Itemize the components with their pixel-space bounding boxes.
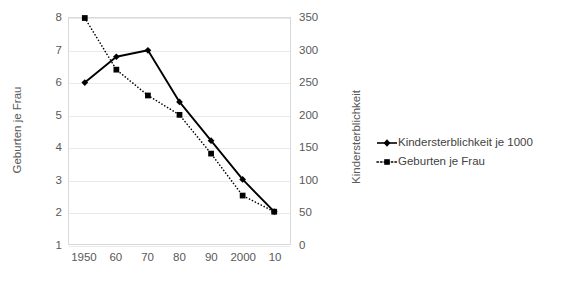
data-point-square-marker [240, 193, 246, 199]
y-axis-right-ticks: 350300250200150100500 [299, 17, 333, 245]
data-point-square-marker [177, 112, 183, 118]
y-axis-right-tick-label: 0 [299, 239, 305, 251]
x-axis-tick-label: 80 [173, 251, 186, 263]
legend-key-dotted-square-icon [376, 156, 398, 168]
legend-label-kindersterblichkeit: Kindersterblichkeit je 1000 [398, 137, 533, 149]
chart-container: 87654321 350300250200150100500 195060708… [0, 0, 563, 287]
x-axis-tick-label: 2000 [230, 251, 256, 263]
gridline [69, 246, 290, 247]
y-axis-right-tick-label: 100 [299, 174, 318, 186]
y-axis-left-tick-label: 4 [56, 141, 62, 153]
x-axis-tick-label: 10 [269, 251, 282, 263]
legend-item-kindersterblichkeit[interactable]: Kindersterblichkeit je 1000 [376, 134, 533, 151]
data-point-square-marker [208, 151, 214, 157]
data-point-square-marker [145, 93, 151, 99]
series-line [85, 50, 274, 211]
y-axis-left-tick-label: 2 [56, 206, 62, 218]
y-axis-right-tick-label: 200 [299, 109, 318, 121]
y-axis-right-title: Kindersterblichkeit [350, 77, 362, 197]
legend-label-geburten: Geburten je Frau [398, 156, 485, 168]
y-axis-left-tick-label: 1 [56, 239, 62, 251]
plot-area [68, 17, 291, 245]
data-point-square-marker [271, 209, 277, 215]
y-axis-right-tick-label: 150 [299, 141, 318, 153]
series-1 [81, 47, 277, 215]
x-axis-tick-label: 70 [141, 251, 154, 263]
y-axis-right-tick-label: 50 [299, 206, 312, 218]
series-plot [69, 18, 290, 244]
data-point-square-marker [113, 67, 119, 73]
y-axis-right-tick-label: 300 [299, 44, 318, 56]
x-axis-tick-label: 60 [109, 251, 122, 263]
y-axis-left-tick-label: 7 [56, 44, 62, 56]
data-point-square-marker [82, 15, 88, 21]
y-axis-left-tick-label: 8 [56, 11, 62, 23]
y-axis-left-title: Geburten je Frau [11, 80, 23, 180]
x-axis-tick-label: 90 [205, 251, 218, 263]
y-axis-left-tick-label: 5 [56, 109, 62, 121]
y-axis-left-tick-label: 6 [56, 76, 62, 88]
x-axis-ticks: 195060708090200010 [68, 251, 291, 271]
y-axis-right-tick-label: 250 [299, 76, 318, 88]
y-axis-left-ticks: 87654321 [36, 17, 62, 245]
y-axis-left-tick-label: 3 [56, 174, 62, 186]
legend-key-solid-diamond-icon [376, 137, 398, 149]
y-axis-right-tick-label: 350 [299, 11, 318, 23]
chart-legend: Kindersterblichkeit je 1000 Geburten je … [376, 134, 533, 172]
legend-item-geburten[interactable]: Geburten je Frau [376, 153, 533, 170]
x-axis-tick-label: 1950 [71, 251, 97, 263]
